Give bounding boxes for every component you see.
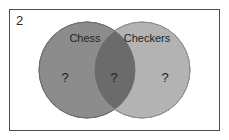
venn-value-intersection[interactable]: ? <box>110 70 117 85</box>
venn-value-chess-only[interactable]: ? <box>61 70 68 85</box>
venn-stage: Chess Checkers ? ? ? <box>9 9 220 131</box>
venn-svg: Chess Checkers ? ? ? <box>9 9 220 131</box>
venn-diagram-figure: 2 Chess Checkers ? ? <box>0 0 229 140</box>
venn-value-checkers-only[interactable]: ? <box>161 70 168 85</box>
venn-label-checkers: Checkers <box>124 32 171 44</box>
venn-label-chess: Chess <box>69 32 101 44</box>
